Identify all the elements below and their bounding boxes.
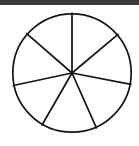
pie-sector-diagram (0, 0, 139, 146)
figure-container (0, 0, 139, 146)
